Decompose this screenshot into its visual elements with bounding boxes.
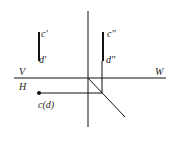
label-plane-v: V bbox=[19, 66, 27, 77]
label-d-front: d′ bbox=[39, 54, 47, 65]
diagonal-45-line bbox=[88, 78, 125, 117]
label-cd-top: c(d) bbox=[38, 99, 55, 111]
label-plane-h: H bbox=[18, 81, 27, 92]
label-c-front: c′ bbox=[41, 28, 48, 39]
label-plane-w: W bbox=[155, 66, 165, 77]
label-d-side: d″ bbox=[106, 54, 116, 65]
label-c-side: c″ bbox=[107, 28, 116, 39]
projection-diagram: c′ d′ c″ d″ V H W c(d) bbox=[0, 0, 178, 149]
point-cd-top bbox=[37, 91, 41, 95]
